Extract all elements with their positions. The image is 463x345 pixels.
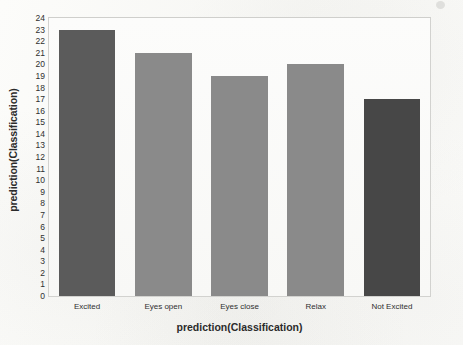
bar (287, 64, 344, 296)
y-axis-tick-label: 6 (40, 222, 45, 231)
y-axis-tick-label: 8 (40, 199, 45, 208)
x-axis-tick-label: Not Excited (371, 303, 412, 311)
bar (59, 30, 116, 296)
y-axis-tick-label: 13 (36, 141, 45, 150)
x-axis-tick-label: Eyes close (220, 303, 259, 311)
x-axis-tick-label: Relax (305, 303, 325, 311)
y-axis-tick-label: 16 (36, 106, 45, 115)
x-axis-title: prediction(Classification) (48, 322, 431, 333)
y-axis-tick-label: 12 (36, 153, 45, 162)
y-axis-tick-label: 0 (40, 292, 45, 301)
bar-chart: prediction(Classification) 2423222120191… (0, 0, 463, 345)
x-axis-tick-label: Eyes open (144, 303, 182, 311)
bar (364, 99, 421, 296)
y-axis-tick-label: 4 (40, 245, 45, 254)
y-axis-tick-label: 19 (36, 72, 45, 81)
y-axis-tick-label: 7 (40, 211, 45, 220)
y-axis-tick-labels: 2423222120191817161514131211109876543210 (26, 18, 48, 296)
y-axis-tick-label: 20 (36, 60, 45, 69)
y-axis-tick-label: 24 (36, 14, 45, 23)
y-axis-tick-label: 18 (36, 83, 45, 92)
y-axis-tick-label: 21 (36, 49, 45, 58)
y-axis-tick-label: 11 (36, 164, 45, 173)
y-axis-tick-label: 1 (40, 280, 45, 289)
bars-layer (49, 18, 430, 296)
bar (135, 53, 192, 296)
y-axis-title-text: prediction(Classification) (7, 88, 19, 211)
y-axis-tick-label: 5 (40, 234, 45, 243)
bar (211, 76, 268, 296)
y-axis-tick-label: 3 (40, 257, 45, 266)
x-axis-tick-label: Excited (74, 303, 100, 311)
y-axis-tick-label: 2 (40, 269, 45, 278)
y-axis-tick-label: 17 (36, 95, 45, 104)
plot-area (48, 17, 431, 297)
y-axis-tick-label: 10 (36, 176, 45, 185)
y-axis-tick-label: 22 (36, 37, 45, 46)
y-axis-tick-label: 9 (40, 188, 45, 197)
y-axis-title: prediction(Classification) (0, 0, 26, 300)
y-axis-tick-label: 14 (36, 130, 45, 139)
y-axis-tick-label: 23 (36, 25, 45, 34)
y-axis-tick-label: 15 (36, 118, 45, 127)
x-axis-tick-labels: ExcitedEyes openEyes closeRelaxNot Excit… (48, 303, 431, 317)
